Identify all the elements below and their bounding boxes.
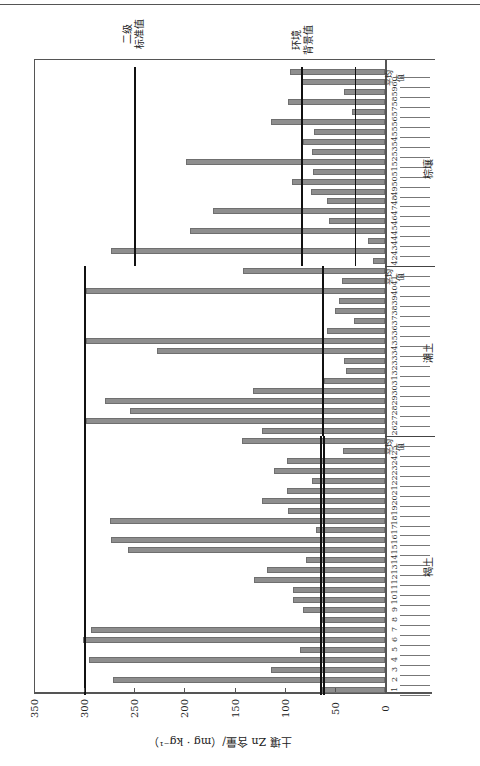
category-separator [400,296,430,297]
category-separator [400,107,430,108]
bar-1 [322,687,385,693]
category-separator [400,117,430,118]
category-separator [400,206,430,207]
category-separator [400,316,430,317]
reference-line [301,67,303,266]
zero-baseline [385,59,387,692]
page-top-rule [0,4,480,5]
category-separator [400,187,430,188]
category-separator [400,595,430,596]
category-separator [400,476,430,477]
category-separator [400,466,430,467]
standard-value-label: 二级 标准值 [122,14,146,54]
bar-39 [339,298,385,304]
bar-5 [300,647,385,653]
bar-47 [213,208,385,214]
value-tick-label: 350 [28,694,39,724]
bar-25 [343,448,385,454]
bar-56 [271,119,385,125]
category-separator [400,306,430,307]
bar-18 [110,518,385,524]
bar-3 [271,667,385,673]
category-separator [400,426,430,427]
category-separator [400,695,430,696]
value-tick-label: 300 [79,694,90,724]
group-label: 褐土 [420,552,435,582]
category-separator [400,137,430,138]
bar-11 [293,587,385,593]
reference-line [134,67,136,266]
category-separator [400,655,430,656]
category-separator [400,645,430,646]
bar-24 [287,458,385,464]
bar-50 [292,179,385,185]
bar-54 [303,139,385,145]
category-separator [400,147,430,148]
value-tick [34,688,35,692]
category-separator [400,486,430,487]
bar-46 [329,218,385,224]
bar-40 [86,288,385,294]
bar-41 [342,278,385,284]
bar-9 [303,607,385,613]
value-tick-label: 150 [229,694,240,724]
category-separator [400,625,430,626]
category-separator [400,446,430,447]
category-separator [400,386,430,387]
bar-38 [335,308,385,314]
bar-19 [288,508,385,514]
value-tick-label: 100 [279,694,290,724]
category-separator [400,665,430,666]
category-separator [400,97,430,98]
category-separator [400,635,430,636]
bar-36 [327,328,385,334]
category-separator [400,585,430,586]
bar-8 [322,617,385,623]
bar-29 [105,398,385,404]
value-tick [285,688,286,692]
bar-53 [312,149,385,155]
reference-line [355,67,356,266]
bar-37 [354,318,385,324]
bar-59 [344,89,385,95]
value-tick [84,688,85,692]
category-separator [400,276,430,277]
bar-10 [293,597,385,603]
bar-28 [130,408,385,414]
category-separator [400,535,430,536]
category-separator [400,256,430,257]
group-divider [385,266,435,267]
category-label: 平均值 [383,68,405,88]
category-separator [400,326,430,327]
bar-13 [267,567,385,573]
category-separator [400,506,430,507]
value-tick-label: 50 [329,694,340,724]
bar-15 [128,547,385,553]
category-separator [400,226,430,227]
category-separator [400,236,430,237]
category-separator [400,615,430,616]
bar-17 [316,527,385,533]
bar-32 [346,368,385,374]
background-value-label: 环境 背景值 [291,20,315,60]
value-tick [385,688,386,692]
bar-55 [314,129,385,135]
value-tick [134,688,135,692]
category-separator [400,216,430,217]
value-tick [335,688,336,692]
value-tick-label: 200 [179,694,190,724]
value-tick-label: 250 [129,694,140,724]
bar-23 [274,468,385,474]
category-separator [400,605,430,606]
bar-43 [111,248,385,254]
bar-14 [306,557,385,563]
category-separator [400,376,430,377]
bar-51 [313,169,385,175]
group-divider [385,436,435,437]
category-separator [400,127,430,128]
bar-35 [86,338,385,344]
category-separator [400,516,430,517]
bar-16 [111,537,385,543]
bar-34 [157,348,385,354]
reference-line [84,266,86,436]
